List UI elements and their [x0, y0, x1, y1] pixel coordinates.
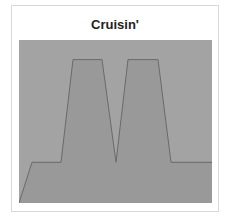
- elevation-area-chart: [19, 40, 212, 203]
- chart-title: Cruisin': [12, 17, 218, 32]
- plot-area: [19, 40, 212, 203]
